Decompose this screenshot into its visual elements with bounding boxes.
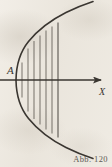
figure-caption: Abb. 120 xyxy=(0,154,108,164)
parabola-upper-branch xyxy=(16,2,93,81)
figure-caption-text: Abb. 120 xyxy=(73,154,108,164)
axis-label-x: X xyxy=(98,86,106,97)
parabola-diagram: A X xyxy=(0,0,112,167)
figure-container: A X Abb. 120 xyxy=(0,0,112,167)
parabola-lower-branch xyxy=(16,80,93,159)
vertex-label-a: A xyxy=(6,64,14,76)
